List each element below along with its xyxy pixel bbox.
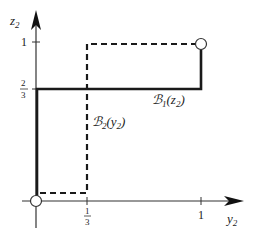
- equilibrium-origin-marker: [31, 196, 42, 207]
- best-response-diagram: z2 y2 1 2 3 1 3 1 ℬ1(z2) ℬ2(y2): [0, 0, 267, 238]
- svg-text:3: 3: [21, 90, 26, 100]
- curve-label-b2: ℬ2(y2): [92, 114, 125, 131]
- x-axis-label: y2: [225, 211, 238, 228]
- x-tick-label-1: 1: [198, 208, 204, 222]
- curve-label-b1: ℬ1(z2): [152, 92, 185, 109]
- equilibrium-top-right-marker: [196, 39, 207, 50]
- y-tick-label-1: 1: [21, 35, 27, 49]
- y-axis-label: z2: [9, 13, 20, 30]
- svg-text:3: 3: [85, 217, 90, 227]
- svg-text:2: 2: [21, 78, 26, 88]
- x-tick-label-one-third: 1 3: [84, 206, 91, 227]
- svg-text:1: 1: [85, 206, 90, 216]
- curve-b2-dashed: [40, 44, 197, 193]
- x-axis: [22, 196, 244, 206]
- y-tick-label-two-thirds: 2 3: [20, 78, 28, 100]
